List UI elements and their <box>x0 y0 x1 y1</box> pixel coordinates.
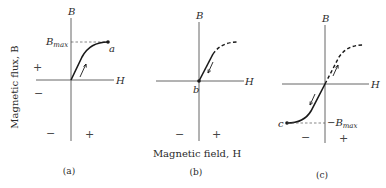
panel-c-neg-bmax-label: −Bmax <box>327 117 358 130</box>
panel-c-point-label: c <box>278 118 284 129</box>
panel-c-dashed-curve <box>325 45 363 84</box>
panel-b-sign-bottom-left: − <box>175 128 184 141</box>
y-axis-title: Magnetic flux, B <box>9 45 20 128</box>
panel-c-h-label: H <box>370 79 380 90</box>
panel-b-point-label: b <box>193 84 199 95</box>
panel-c: B H c −Bmax − + (c) <box>278 13 380 180</box>
panel-a-h-label: H <box>115 75 125 86</box>
panel-b-sign-bottom-right: + <box>212 128 221 141</box>
panel-a: B H Bmax a + − − + (a) <box>33 6 125 176</box>
panel-a-b-label: B <box>67 6 75 17</box>
magnetization-diagram: Magnetic flux, B B H Bmax a + − − + (a) … <box>0 0 386 188</box>
panel-a-sign-bottom-right: + <box>85 128 94 141</box>
panel-a-point-label: a <box>109 43 115 54</box>
panel-b-b-label: B <box>195 10 203 21</box>
panel-c-caption: (c) <box>316 170 328 180</box>
panel-b-caption: (b) <box>190 167 203 177</box>
panel-a-sign-upper-left: + <box>33 61 42 74</box>
panel-a-sign-bottom-left: − <box>46 127 55 140</box>
panel-c-sign-bottom-left: − <box>301 131 310 144</box>
panel-a-caption: (a) <box>63 166 75 176</box>
panel-b-h-label: H <box>244 76 254 87</box>
panel-c-magnetization-curve <box>287 84 325 123</box>
panel-c-b-label: B <box>321 13 329 24</box>
panel-b-dashed-curve <box>213 42 238 54</box>
panel-a-magnetization-curve <box>71 42 108 80</box>
panel-a-direction-arrow-icon <box>80 64 86 77</box>
panel-b: B H b − + Magnetic field, H (b) <box>153 10 254 177</box>
panel-b-point-b <box>197 79 201 83</box>
panel-a-sign-lower-left: − <box>34 87 43 100</box>
x-axis-title: Magnetic field, H <box>153 148 242 159</box>
panel-c-sign-bottom-right: + <box>339 132 348 145</box>
panel-a-bmax-label: Bmax <box>45 36 68 49</box>
